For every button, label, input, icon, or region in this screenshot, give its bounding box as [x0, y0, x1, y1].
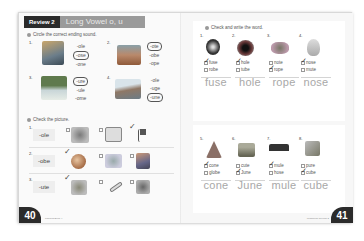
- mouse-icon: [136, 180, 150, 194]
- rope-icon: [271, 42, 289, 54]
- bullet-icon: [27, 118, 31, 122]
- hole-icon: [237, 40, 254, 56]
- checkbox-checked[interactable]: [269, 164, 273, 168]
- item-number: 2.: [107, 40, 110, 45]
- checkbox[interactable]: [130, 154, 134, 158]
- option[interactable]: -one: [74, 61, 88, 68]
- written-word[interactable]: cube: [299, 179, 333, 191]
- choice-hole[interactable]: hole: [236, 60, 250, 65]
- choice-fuse[interactable]: fuse: [204, 60, 218, 65]
- row-divider: [29, 147, 174, 148]
- checkbox[interactable]: [301, 68, 305, 72]
- option-circled[interactable]: -ose: [73, 51, 89, 60]
- pole-flag-icon: [138, 129, 150, 142]
- review-label: Review 2: [24, 16, 60, 28]
- item-number: 1.: [200, 33, 203, 38]
- cone-icon: [206, 141, 222, 158]
- page-footer-right: Workbook Review 2: [307, 217, 329, 220]
- checkmark-icon: ✓: [129, 123, 136, 131]
- ending-options: -ote -obe -ope: [147, 42, 162, 67]
- item-number: 8.: [299, 136, 302, 141]
- checkmark-icon: ✓: [64, 174, 71, 182]
- choice-rope[interactable]: rope: [269, 67, 283, 72]
- checkbox[interactable]: [236, 68, 240, 72]
- option[interactable]: -ule: [75, 87, 87, 94]
- globe-icon: [71, 154, 86, 169]
- written-word[interactable]: fuse: [199, 76, 233, 88]
- elephant-icon: [105, 154, 122, 168]
- checkbox[interactable]: [130, 180, 134, 184]
- item-number: 3.: [267, 33, 270, 38]
- mole-icon: [71, 127, 89, 143]
- fuse-icon: [206, 39, 220, 55]
- choice-globe[interactable]: globe: [204, 170, 220, 175]
- checkbox[interactable]: [99, 128, 103, 132]
- word-ending-box: -ole: [33, 129, 55, 141]
- choice-mute[interactable]: mute: [301, 67, 316, 72]
- checkbox[interactable]: [99, 154, 103, 158]
- item-number: 2.: [232, 33, 235, 38]
- dune-icon: [115, 79, 141, 99]
- option[interactable]: -obe: [147, 52, 161, 59]
- option[interactable]: -ope: [147, 60, 161, 67]
- item-number: 7.: [267, 136, 270, 141]
- checkbox[interactable]: [66, 128, 70, 132]
- page-number-left: 40: [19, 207, 41, 223]
- option-circled[interactable]: -ure: [73, 77, 88, 86]
- written-word[interactable]: rope: [267, 76, 301, 88]
- choice-cube[interactable]: cube: [301, 170, 316, 175]
- robot-icon: [136, 153, 150, 169]
- option[interactable]: -ole: [149, 77, 161, 84]
- section-b-instruction: Check the picture.: [27, 117, 69, 122]
- choice-hose[interactable]: hose: [269, 170, 284, 175]
- choice-cone[interactable]: cone: [204, 163, 219, 168]
- checkbox[interactable]: [269, 171, 273, 175]
- word-ending-box: -ute: [33, 181, 55, 193]
- page-number-right: 41: [331, 207, 353, 223]
- choice-tube[interactable]: tube: [236, 67, 250, 72]
- choice-june[interactable]: June: [236, 170, 251, 175]
- review-title: Long Vowel o, u: [60, 16, 145, 28]
- option[interactable]: -ole: [75, 43, 87, 50]
- row-divider: [29, 173, 174, 174]
- ending-options: -ole -ose -one: [73, 43, 89, 68]
- option-circled[interactable]: -ote: [147, 42, 162, 51]
- choice-nose[interactable]: nose: [301, 60, 316, 65]
- written-word[interactable]: cone: [199, 179, 233, 191]
- cube-icon: [305, 141, 320, 156]
- robot-icon: [42, 41, 64, 65]
- plant-icon: [41, 76, 67, 100]
- written-word[interactable]: June: [233, 179, 267, 191]
- checkbox-checked[interactable]: [301, 171, 305, 175]
- checkbox-checked[interactable]: [204, 164, 208, 168]
- choice-robe[interactable]: robe: [204, 67, 218, 72]
- item-number: 5.: [200, 136, 203, 141]
- choice-mule[interactable]: mule: [269, 163, 284, 168]
- item-number: 1.: [29, 40, 32, 45]
- row-number: 3.: [29, 177, 32, 182]
- checkmark-icon: ✓: [64, 148, 71, 156]
- written-word[interactable]: nose: [299, 76, 333, 88]
- option[interactable]: -ome: [73, 95, 88, 102]
- checkbox-checked[interactable]: [236, 61, 240, 65]
- mule-icon: [269, 144, 289, 156]
- checkbox[interactable]: [99, 180, 103, 184]
- written-word[interactable]: hole: [233, 76, 267, 88]
- checkbox[interactable]: [204, 171, 208, 175]
- row-number: 1.: [29, 125, 32, 130]
- bullet-icon: [205, 26, 209, 30]
- checkbox[interactable]: [204, 68, 208, 72]
- checkbox-checked[interactable]: [204, 61, 208, 65]
- ending-options: -ole -uge -une: [147, 77, 163, 102]
- item-number: 3.: [29, 75, 32, 80]
- nose-icon: [307, 39, 320, 56]
- vote-box-icon: [117, 45, 141, 65]
- checkbox-checked[interactable]: [301, 61, 305, 65]
- section-a-instruction: Circle the correct ending sound.: [27, 32, 97, 37]
- written-word[interactable]: mule: [267, 179, 301, 191]
- option-circled[interactable]: -une: [147, 93, 163, 102]
- checkbox-checked[interactable]: [236, 171, 240, 175]
- checkbox-checked[interactable]: [269, 68, 273, 72]
- option[interactable]: -uge: [148, 85, 162, 92]
- right-instruction: Check and write the word.: [205, 25, 263, 30]
